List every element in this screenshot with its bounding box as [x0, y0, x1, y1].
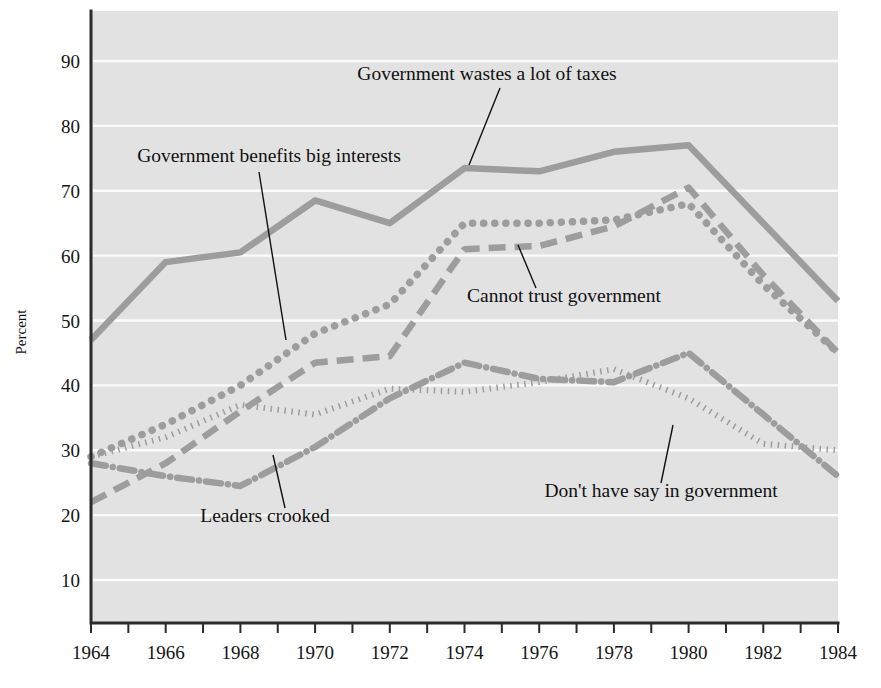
x-axis-tick-label: 1980	[670, 642, 708, 663]
y-axis-tick-label: 50	[61, 311, 80, 332]
y-axis-tick-label: 20	[61, 505, 80, 526]
y-axis-tick-label: 80	[61, 116, 80, 137]
y-axis-tick-label: 40	[61, 375, 80, 396]
plot-background	[91, 11, 838, 623]
x-axis-tick-label: 1984	[819, 642, 858, 663]
annotation-label: Government benefits big interests	[137, 145, 401, 166]
y-axis-tick-label: 90	[61, 51, 80, 72]
x-axis-tick-label: 1978	[595, 642, 633, 663]
x-axis-tick-label: 1974	[446, 642, 485, 663]
x-axis-tick-label: 1966	[147, 642, 185, 663]
y-axis-labels: 102030405060708090	[61, 51, 80, 591]
annotation-label: Cannot trust government	[467, 285, 661, 306]
x-axis-tick-label: 1968	[221, 642, 259, 663]
x-axis-labels: 1964196619681970197219741976197819801982…	[72, 642, 858, 663]
annotation-label: Government wastes a lot of taxes	[357, 63, 616, 84]
line-chart: 102030405060708090 196419661968197019721…	[0, 0, 881, 688]
x-axis-tick-label: 1970	[296, 642, 334, 663]
y-axis-tick-label: 60	[61, 246, 80, 267]
y-axis-tick-label: 30	[61, 440, 80, 461]
x-axis-tick-label: 1964	[72, 642, 111, 663]
x-axis-ticks	[91, 623, 838, 633]
annotation-label: Don't have say in government	[544, 480, 778, 501]
y-axis-tick-label: 70	[61, 181, 80, 202]
x-axis-tick-label: 1976	[520, 642, 558, 663]
annotation-label: Leaders crooked	[200, 505, 330, 526]
x-axis-tick-label: 1982	[744, 642, 782, 663]
x-axis-tick-label: 1972	[371, 642, 409, 663]
y-axis-title: Percent	[13, 309, 29, 355]
chart-container: 102030405060708090 196419661968197019721…	[0, 0, 881, 688]
y-axis-tick-label: 10	[61, 570, 80, 591]
